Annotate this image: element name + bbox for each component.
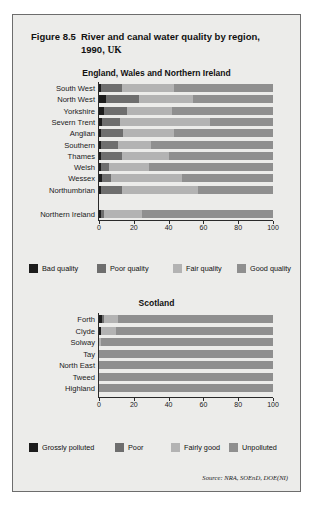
legend-label: Bad quality xyxy=(42,264,78,273)
bar-segment xyxy=(151,141,273,149)
bar-segment xyxy=(104,210,142,218)
x-axis-tick-label: 100 xyxy=(267,224,279,231)
legend-swatch xyxy=(171,443,180,452)
bar-segment xyxy=(102,174,111,182)
category-label: South West xyxy=(56,84,95,93)
stacked-bar xyxy=(99,141,273,149)
bar-segment xyxy=(101,84,122,92)
bar-segment xyxy=(118,315,273,323)
stacked-bar xyxy=(99,327,273,335)
legend-label: Grossly polluted xyxy=(42,443,94,452)
bar-segment xyxy=(149,163,273,171)
x-axis-tick-label: 20 xyxy=(130,224,138,231)
stacked-bar xyxy=(99,315,273,323)
bar-segment xyxy=(193,95,273,103)
stacked-bar xyxy=(99,129,273,137)
bar-segment xyxy=(101,327,117,335)
chart2-title: Scotland xyxy=(13,298,300,308)
chart2-legend: Grossly pollutedPoorFairly goodUnpollute… xyxy=(29,443,287,455)
chart1-legend: Bad qualityPoor qualityFair qualityGood … xyxy=(29,264,287,276)
x-axis-tick-label: 40 xyxy=(165,224,173,231)
legend-label: Poor quality xyxy=(110,264,149,273)
stacked-bar xyxy=(99,84,273,92)
chart1-title: England, Wales and Northern Ireland xyxy=(13,68,300,78)
legend-swatch xyxy=(115,443,124,452)
category-label: Tay xyxy=(83,349,95,358)
bar-segment xyxy=(104,107,127,115)
category-label: Anglian xyxy=(70,129,95,138)
legend-swatch xyxy=(29,443,38,452)
figure-title-unit: UK xyxy=(107,45,121,55)
bar-segment xyxy=(99,361,273,369)
legend-item[interactable]: Good quality xyxy=(237,264,291,273)
legend-item[interactable]: Poor xyxy=(115,443,143,452)
legend-item[interactable]: Poor quality xyxy=(97,264,149,273)
bar-segment xyxy=(104,315,118,323)
chart2-plot-area: ForthClydeSolwayTayNorth EastTweedHighla… xyxy=(99,313,273,415)
bar-row: Southern xyxy=(99,141,273,149)
stacked-bar xyxy=(99,210,273,218)
stacked-bar xyxy=(99,361,273,369)
bar-segment xyxy=(210,118,273,126)
bar-segment xyxy=(174,84,273,92)
bar-segment xyxy=(111,174,182,182)
category-label: Highland xyxy=(65,384,95,393)
figure-title-line2: 1990, xyxy=(81,44,105,55)
bar-segment xyxy=(198,186,273,194)
bar-row: Thames xyxy=(99,152,273,160)
x-axis-tick-label: 80 xyxy=(234,401,242,408)
bar-row: Wessex xyxy=(99,174,273,182)
legend-item[interactable]: Grossly polluted xyxy=(29,443,94,452)
figure-panel: Figure 8.5River and canal water quality … xyxy=(12,14,301,492)
x-axis-tick-label: 80 xyxy=(234,224,242,231)
bar-segment xyxy=(120,118,210,126)
legend-item[interactable]: Bad quality xyxy=(29,264,78,273)
legend-label: Good quality xyxy=(250,264,291,273)
bar-row: North East xyxy=(99,361,273,369)
chart1-plot-area: South WestNorth WestYorkshireSevern Tren… xyxy=(99,82,273,232)
bar-row: Northumbrian xyxy=(99,186,273,194)
bar-row: Welsh xyxy=(99,163,273,171)
bar-segment xyxy=(101,129,124,137)
figure-number: Figure 8.5 xyxy=(31,31,81,44)
bar-segment xyxy=(169,152,273,160)
bar-segment xyxy=(123,129,173,137)
legend-item[interactable]: Fair quality xyxy=(173,264,222,273)
x-axis-tick-label: 0 xyxy=(97,401,101,408)
stacked-bar xyxy=(99,152,273,160)
bar-row: South West xyxy=(99,84,273,92)
bar-row: Clyde xyxy=(99,327,273,335)
bar-segment xyxy=(99,350,273,358)
legend-item[interactable]: Fairly good xyxy=(171,443,220,452)
x-axis-tick-label: 100 xyxy=(267,401,279,408)
legend-swatch xyxy=(29,264,38,273)
legend-item[interactable]: Unpolluted xyxy=(229,443,277,452)
legend-label: Fairly good xyxy=(184,443,220,452)
stacked-bar xyxy=(99,95,273,103)
bar-segment xyxy=(122,152,169,160)
bar-segment xyxy=(122,186,199,194)
stacked-bar xyxy=(99,384,273,392)
bar-segment xyxy=(127,107,172,115)
category-label: Clyde xyxy=(76,326,95,335)
category-label: North West xyxy=(57,95,95,104)
legend-swatch xyxy=(237,264,246,273)
bar-segment xyxy=(142,210,273,218)
legend-label: Fair quality xyxy=(186,264,222,273)
source-note: Source: NRA, SOEnD, DOE(NI) xyxy=(202,474,288,481)
bar-segment xyxy=(106,95,139,103)
legend-swatch xyxy=(229,443,238,452)
bar-segment xyxy=(101,152,122,160)
figure-title-line1: River and canal water quality by region, xyxy=(81,31,260,42)
x-axis-line xyxy=(98,220,273,221)
bar-segment xyxy=(174,129,273,137)
category-label: Severn Trent xyxy=(52,117,95,126)
bar-segment xyxy=(122,84,174,92)
bar-segment xyxy=(102,118,119,126)
legend-swatch xyxy=(173,264,182,273)
legend-label: Poor xyxy=(128,443,143,452)
bar-row: Forth xyxy=(99,315,273,323)
bar-row: Tweed xyxy=(99,373,273,381)
bar-segment xyxy=(99,95,106,103)
stacked-bar xyxy=(99,107,273,115)
